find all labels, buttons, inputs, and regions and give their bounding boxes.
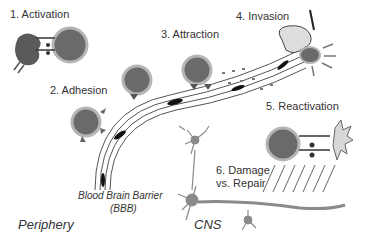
attraction-cells-icon: [123, 56, 212, 100]
step-3-label: 3. Attraction: [161, 28, 219, 40]
adhesion-cell-icon: [72, 108, 106, 142]
reactivation-cell-icon: [267, 120, 353, 160]
step-4-label: 4. Invasion: [236, 10, 289, 22]
activation-cell-icon: [14, 28, 87, 73]
step-5-label: 5. Reactivation: [266, 100, 339, 112]
bbb-label: Blood Brain Barrier: [78, 190, 162, 201]
bbb-abbrev: (BBB): [110, 203, 137, 214]
step-1-label: 1. Activation: [10, 8, 69, 20]
step-6-label-2: vs. Repair: [216, 177, 266, 189]
step-2-label: 2. Adhesion: [50, 84, 108, 96]
periphery-label: Periphery: [18, 217, 74, 232]
damage-arrows: [263, 165, 335, 192]
step-6-label: 6. Damage: [216, 164, 270, 176]
cns-label: CNS: [194, 217, 221, 232]
